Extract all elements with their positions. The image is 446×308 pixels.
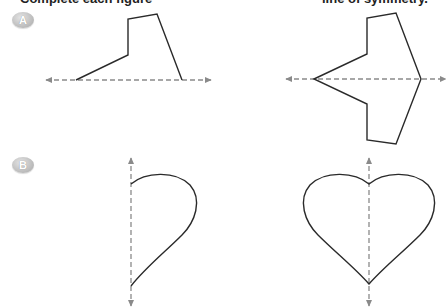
half-heart-outline: [131, 174, 197, 286]
problem-a-given-figure: [46, 14, 211, 80]
problem-a-completed-figure: [286, 13, 446, 144]
half-polygon-outline: [76, 14, 182, 80]
figures-canvas: [0, 0, 446, 308]
problem-b-completed-figure: [303, 158, 434, 306]
problem-b-given-figure: [131, 158, 197, 306]
